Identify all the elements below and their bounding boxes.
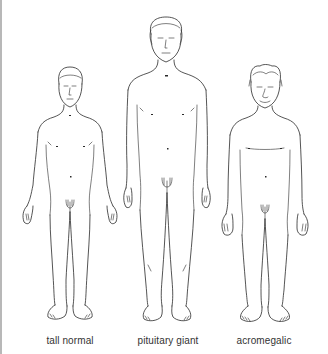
figure-tall-normal: [23, 67, 117, 319]
figures-svg: [0, 0, 328, 354]
label-pituitary-giant: pituitary giant: [138, 335, 199, 346]
label-acromegalic: acromegalic: [236, 335, 291, 346]
figure-pituitary-giant: [124, 17, 211, 321]
illustration-canvas: tall normal pituitary giant acromegalic: [0, 0, 328, 354]
figure-acromegalic: [222, 65, 308, 322]
label-tall-normal: tall normal: [46, 335, 93, 346]
